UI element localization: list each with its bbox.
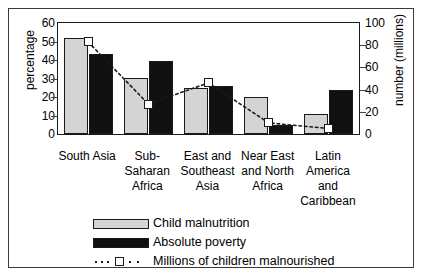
legend-item-millions-malnourished: Millions of children malnourished bbox=[93, 252, 393, 271]
y-axis-label-right: number (millions) bbox=[392, 0, 406, 128]
plot-region bbox=[57, 22, 360, 135]
x-category-label: South Asia bbox=[54, 149, 120, 164]
legend-dotted-line-marker-icon bbox=[93, 256, 149, 267]
y-tick-mark-right bbox=[360, 112, 366, 113]
legend-item-absolute-poverty: Absolute poverty bbox=[93, 233, 393, 252]
y-tick-mark-right bbox=[360, 45, 366, 46]
x-category-label: Sub- Saharan Africa bbox=[114, 149, 180, 194]
chart-legend: Child malnutrition Absolute poverty Mill… bbox=[93, 214, 393, 271]
legend-swatch-light-icon bbox=[93, 219, 149, 229]
y-tick-label-right: 60 bbox=[365, 61, 393, 73]
y-tick-label-right: 80 bbox=[365, 39, 393, 51]
y-tick-mark-right bbox=[360, 67, 366, 68]
y-tick-label-right: 100 bbox=[365, 17, 393, 29]
y-tick-label-right: 20 bbox=[365, 106, 393, 118]
line-marker-open-square bbox=[204, 78, 213, 87]
y-tick-label-right: 40 bbox=[365, 84, 393, 96]
line-marker-open-square bbox=[84, 37, 93, 46]
legend-item-child-malnutrition: Child malnutrition bbox=[93, 214, 393, 233]
x-category-label: East and Southeast Asia bbox=[174, 149, 240, 194]
y-tick-label-left: 0 bbox=[29, 128, 55, 140]
figure-frame: percentage number (millions) 01020304050… bbox=[8, 8, 414, 268]
line-marker-open-square bbox=[144, 100, 153, 109]
x-category-label: Latin America and Caribbean bbox=[295, 149, 361, 209]
line-marker-open-square bbox=[324, 124, 333, 133]
x-category-label: Near East and North Africa bbox=[235, 149, 301, 194]
y-tick-label-left: 60 bbox=[29, 17, 55, 29]
y-tick-label-right: 0 bbox=[365, 128, 393, 140]
legend-label: Child malnutrition bbox=[153, 217, 250, 230]
chart-area: percentage number (millions) 01020304050… bbox=[9, 9, 415, 145]
line-marker-open-square bbox=[264, 118, 273, 127]
y-tick-mark-right bbox=[360, 90, 366, 91]
legend-label: Millions of children malnourished bbox=[153, 255, 334, 268]
legend-swatch-dark-icon bbox=[93, 238, 149, 248]
legend-label: Absolute poverty bbox=[153, 236, 246, 249]
x-axis-category-labels: South AsiaSub- Saharan AfricaEast and So… bbox=[57, 149, 360, 213]
